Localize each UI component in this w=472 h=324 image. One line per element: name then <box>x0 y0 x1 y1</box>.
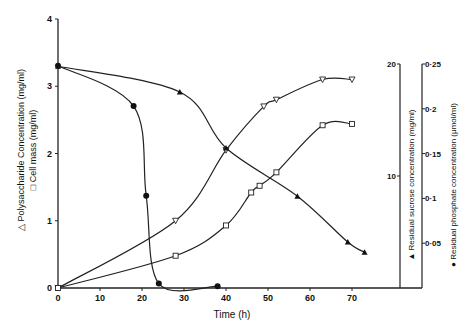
chart: 010203040506070Time (h)01234△ Polysaccha… <box>0 0 472 324</box>
series-line <box>58 66 218 291</box>
cellmass-marker-icon <box>173 253 178 258</box>
x-tick-label: 70 <box>347 293 357 303</box>
phosphate-tick-label: 0·15 <box>425 150 442 159</box>
sucrose-marker-icon <box>362 249 368 255</box>
phosphate-marker-icon <box>55 63 61 69</box>
series-line <box>58 78 352 288</box>
cellmass-marker-icon <box>257 183 262 188</box>
sucrose-axis-label: ▲ Residual sucrose concentration (mg/ml) <box>407 109 416 260</box>
cellmass-marker-icon <box>274 170 279 175</box>
phosphate-tick-label: 0·25 <box>425 60 442 69</box>
sucrose-tick-label: 10 <box>387 172 396 181</box>
x-axis-label: Time (h) <box>214 309 251 320</box>
left-axis-label-cellmass: □ Cell mass (mg/ml) <box>28 110 38 190</box>
x-tick-label: 60 <box>305 293 315 303</box>
phosphate-marker-icon <box>143 193 149 199</box>
y-tick-label: 3 <box>47 81 52 91</box>
y-tick-label: 2 <box>47 149 52 159</box>
x-tick-label: 10 <box>95 293 105 303</box>
cellmass-marker-icon <box>56 286 61 291</box>
phosphate-axis-label: ● Residual phosphate concentration (μmol… <box>449 103 458 267</box>
phosphate-tick-label: 0·05 <box>425 239 442 248</box>
left-axis-label-polysaccharide: △ Polysaccharide Concentration (mg/ml) <box>16 69 26 231</box>
series-line <box>58 66 365 252</box>
cellmass-marker-icon <box>249 190 254 195</box>
phosphate-marker-icon <box>156 281 162 287</box>
phosphate-marker-icon <box>131 103 137 109</box>
cellmass-marker-icon <box>350 121 355 126</box>
y-tick-label: 1 <box>47 216 52 226</box>
phosphate-marker-icon <box>215 283 221 289</box>
sucrose-marker-icon <box>177 89 183 95</box>
y-tick-label: 4 <box>47 14 52 24</box>
x-tick-label: 30 <box>179 293 189 303</box>
phosphate-tick-label: 0·1 <box>425 194 437 203</box>
cellmass-marker-icon <box>224 223 229 228</box>
x-tick-label: 50 <box>263 293 273 303</box>
x-tick-label: 40 <box>221 293 231 303</box>
phosphate-tick-label: 0·2 <box>425 105 437 114</box>
cellmass-marker-icon <box>320 123 325 128</box>
sucrose-tick-label: 20 <box>387 60 396 69</box>
x-tick-label: 20 <box>137 293 147 303</box>
y-tick-label: 0 <box>47 283 52 293</box>
x-tick-label: 0 <box>55 293 60 303</box>
